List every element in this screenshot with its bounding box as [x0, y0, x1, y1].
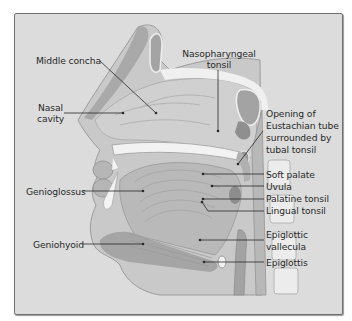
label-eustachian-line1: Opening of [266, 108, 316, 119]
label-nasopharyngeal-tonsil-line2: tonsil [182, 59, 256, 70]
label-eustachian-line4: tubal tonsil [266, 144, 316, 155]
label-lingual-tonsil: Lingual tonsil [266, 205, 326, 216]
label-epiglottic-vallecula-line1: Epiglottic [266, 229, 308, 240]
label-epiglottic-vallecula-line2: vallecula [266, 241, 306, 252]
label-middle-concha: Middle concha [36, 55, 101, 66]
label-palatine-tonsil: Palatine tonsil [266, 193, 329, 204]
label-eustachian-line3: surrounded by [266, 132, 331, 143]
label-nasopharyngeal-tonsil-line1: Nasopharyngeal [182, 48, 256, 59]
label-epiglottis: Epiglottis [266, 257, 308, 268]
label-geniohyoid: Geniohyoid [33, 239, 84, 250]
label-uvula: Uvula [266, 181, 292, 192]
label-soft-palate: Soft palate [266, 169, 315, 180]
label-eustachian-line2: Eustachian tube [266, 120, 339, 131]
label-genioglossus: Genioglossus [26, 186, 86, 197]
label-nasal-cavity-line1: Nasal [37, 102, 64, 113]
label-nasal-cavity-line2: cavity [37, 113, 64, 124]
head-sagittal-section [0, 0, 352, 321]
